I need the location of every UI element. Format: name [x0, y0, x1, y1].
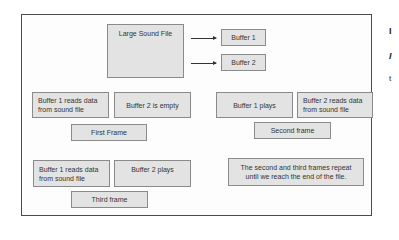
first-frame-buffer-1-box: Buffer 1 reads data from sound file: [32, 92, 109, 118]
buffer-1-box: Buffer 1: [221, 29, 266, 46]
third-frame-buffer-1-box: Buffer 1 reads data from sound file: [33, 160, 110, 187]
second-frame-buffer-1-text: Buffer 1 plays: [233, 101, 276, 110]
third-frame-buffer-2-text: Buffer 2 plays: [131, 165, 174, 174]
first-frame-buffer-1-text: Buffer 1 reads data from sound file: [38, 96, 108, 114]
second-frame-buffer-2-box: Buffer 2 reads data from sound file: [297, 92, 373, 118]
large-sound-file-label: Large Sound File: [119, 29, 172, 38]
margin-glyph-3: t: [389, 74, 391, 83]
buffer-2-label: Buffer 2: [231, 58, 255, 67]
margin-glyph-2: I: [389, 51, 392, 61]
third-frame-buffer-2-box: Buffer 2 plays: [114, 160, 191, 187]
first-frame-label-box: First Frame: [71, 124, 147, 141]
second-frame-buffer-2-text: Buffer 2 reads data from sound file: [303, 96, 372, 114]
repeat-note-text: The second and third frames repeat until…: [237, 163, 355, 181]
second-frame-label: Second frame: [271, 126, 315, 135]
arrow-to-buffer-2-icon: [191, 63, 216, 64]
buffer-1-label: Buffer 1: [231, 33, 255, 42]
buffer-2-box: Buffer 2: [221, 54, 266, 71]
large-sound-file-box: Large Sound File: [107, 24, 184, 78]
third-frame-label: Third frame: [92, 195, 128, 204]
arrow-to-buffer-1-icon: [191, 38, 216, 39]
margin-glyph-1: I: [389, 26, 392, 36]
second-frame-buffer-1-box: Buffer 1 plays: [216, 92, 293, 118]
first-frame-label: First Frame: [91, 128, 127, 137]
first-frame-buffer-2-box: Buffer 2 is empty: [114, 92, 191, 118]
second-frame-label-box: Second frame: [254, 122, 331, 139]
first-frame-buffer-2-text: Buffer 2 is empty: [126, 101, 178, 110]
third-frame-label-box: Third frame: [71, 191, 148, 208]
repeat-note-box: The second and third frames repeat until…: [228, 158, 364, 186]
third-frame-buffer-1-text: Buffer 1 reads data from sound file: [39, 165, 109, 183]
